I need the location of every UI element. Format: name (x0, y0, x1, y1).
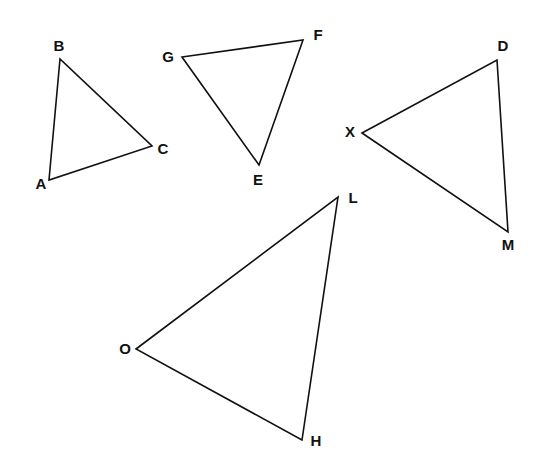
triangle-olh-outline (136, 197, 338, 440)
vertex-label-l: L (348, 189, 357, 206)
triangle-xdm: X D M (345, 37, 514, 253)
vertex-label-f: F (313, 26, 322, 43)
triangle-xdm-outline (362, 60, 508, 232)
vertex-label-a: A (36, 175, 47, 192)
vertex-label-e: E (253, 171, 263, 188)
vertex-label-c: C (158, 140, 169, 157)
vertex-label-x: X (345, 123, 355, 140)
triangle-abc: A B C (36, 37, 169, 192)
vertex-label-d: D (498, 37, 509, 54)
triangle-abc-outline (49, 59, 152, 180)
vertex-label-b: B (54, 37, 65, 54)
diagram-canvas: A B C G F E X D M O L H (0, 0, 552, 468)
triangle-gfe-outline (182, 40, 303, 165)
vertex-label-m: M (502, 236, 515, 253)
triangle-gfe: G F E (162, 26, 322, 188)
vertex-label-g: G (162, 48, 174, 65)
triangle-olh: O L H (119, 189, 357, 449)
triangles-diagram: A B C G F E X D M O L H (0, 0, 552, 468)
vertex-label-h: H (311, 432, 322, 449)
vertex-label-o: O (119, 340, 131, 357)
